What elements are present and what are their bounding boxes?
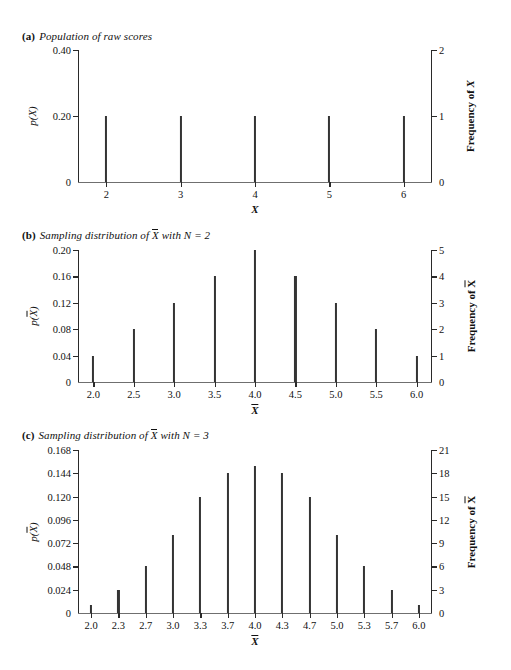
x-tick	[174, 382, 175, 387]
panel-tag-c: (c)	[22, 429, 35, 441]
x-bar-symbol: X	[26, 525, 39, 532]
x-tick	[337, 613, 338, 618]
y-axis-left-a	[78, 50, 79, 182]
bar	[403, 116, 405, 182]
x-tick-label: 3.0	[168, 389, 181, 400]
bar	[173, 303, 175, 382]
panel-caption-text-a: Population of raw scores	[39, 30, 152, 42]
y-axis-title-right-a: Frequency of X	[464, 80, 476, 152]
x-tick	[255, 182, 256, 187]
plot-area-b: 00.040.080.120.160.200123452.02.53.03.54…	[78, 250, 432, 382]
x-tick-label: 3.3	[194, 620, 207, 631]
y-tick-right	[432, 250, 437, 251]
x-axis-title-a: X	[251, 203, 258, 215]
panel-tag-b: (b)	[22, 229, 36, 241]
bar	[336, 535, 338, 613]
y-axis-left-c	[78, 450, 79, 613]
y-tick-label-right: 0	[439, 608, 444, 619]
bar	[335, 303, 337, 382]
panel-caption-text-c: Sampling distribution of X with N = 3	[39, 429, 209, 441]
bar	[254, 116, 256, 182]
x-bar-symbol: X	[464, 280, 477, 288]
x-bar-symbol: X	[251, 403, 258, 416]
x-tick-label: 4.0	[248, 620, 261, 631]
plot-area-c: 00.0240.0480.0720.0960.1200.1440.1680369…	[78, 450, 432, 613]
y-tick-label-left: 0.048	[47, 561, 71, 572]
x-tick-label: 6.0	[410, 389, 423, 400]
bar	[180, 116, 182, 182]
y-tick-label-left: 0.120	[47, 491, 71, 502]
x-tick-label: 2	[104, 189, 109, 200]
bar	[214, 276, 216, 382]
x-tick-label: 3	[178, 189, 183, 200]
y-tick-label-right: 18	[439, 468, 450, 479]
x-axis-title-b: X	[251, 403, 258, 416]
y-tick-label-left: 0.20	[53, 245, 71, 256]
x-tick	[336, 382, 337, 387]
x-tick-label: 5.3	[358, 620, 371, 631]
plot-area-a: 00.200.4001223456	[78, 50, 432, 182]
bar	[391, 590, 393, 613]
y-tick-label-right: 9	[439, 538, 444, 549]
bar	[133, 329, 135, 382]
x-bar-symbol: X	[251, 634, 258, 647]
x-tick	[404, 182, 405, 187]
y-tick-right	[432, 329, 437, 330]
bar	[227, 473, 229, 613]
y-tick-label-left: 0.072	[47, 538, 71, 549]
y-tick-label-right: 12	[439, 514, 450, 525]
y-axis-right-b	[431, 250, 432, 382]
x-tick-label: 3.5	[208, 389, 221, 400]
panel-caption-b: (b)Sampling distribution of X with N = 2	[22, 228, 210, 241]
x-tick	[255, 613, 256, 618]
y-tick-left	[73, 473, 78, 474]
x-tick	[106, 182, 107, 187]
y-tick-label-left: 0.40	[53, 45, 71, 56]
x-tick-label: 4	[252, 189, 257, 200]
bar	[254, 250, 256, 382]
x-tick-label: 2.3	[112, 620, 125, 631]
bar	[199, 497, 201, 613]
x-tick-label: 6.0	[412, 620, 425, 631]
x-tick-label: 3.0	[166, 620, 179, 631]
y-axis-title-left-c: p(X)	[26, 522, 39, 542]
x-tick-label: 4.5	[289, 389, 302, 400]
y-axis-title-left-b: p(X)	[26, 306, 39, 326]
panel-caption-a: (a)Population of raw scores	[22, 30, 152, 42]
x-bar-symbol: X	[152, 228, 159, 241]
y-tick-label-right: 2	[439, 45, 444, 56]
x-tick	[146, 613, 147, 618]
y-tick-right	[432, 50, 437, 51]
y-tick-label-right: 3	[439, 297, 444, 308]
bar	[92, 356, 94, 382]
bar	[90, 605, 92, 613]
bar	[328, 116, 330, 182]
y-tick-label-right: 3	[439, 584, 444, 595]
x-tick-label: 2.7	[139, 620, 152, 631]
x-tick	[134, 382, 135, 387]
panel-tag-a: (a)	[22, 30, 35, 42]
x-tick-label: 4.3	[276, 620, 289, 631]
y-tick-label-right: 4	[439, 271, 444, 282]
y-tick-left	[73, 520, 78, 521]
bar	[254, 466, 256, 613]
x-tick	[417, 382, 418, 387]
y-tick-left	[73, 543, 78, 544]
x-tick-label: 3.7	[221, 620, 234, 631]
x-tick	[282, 613, 283, 618]
x-bar-symbol: X	[26, 310, 39, 317]
y-tick-left	[73, 450, 78, 451]
x-tick-label: 6	[401, 189, 406, 200]
y-tick-left	[73, 329, 78, 330]
y-tick-right	[432, 590, 437, 591]
panel-caption-c: (c)Sampling distribution of X with N = 3	[22, 428, 209, 441]
y-tick-left	[73, 303, 78, 304]
y-tick-left	[73, 276, 78, 277]
x-tick	[295, 382, 296, 387]
y-axis-left-b	[78, 250, 79, 382]
x-bar-symbol: X	[464, 495, 477, 503]
x-tick	[419, 613, 420, 618]
y-tick-label-right: 15	[439, 491, 450, 502]
x-tick-label: 5.0	[330, 620, 343, 631]
y-tick-label-left: 0.16	[53, 271, 71, 282]
